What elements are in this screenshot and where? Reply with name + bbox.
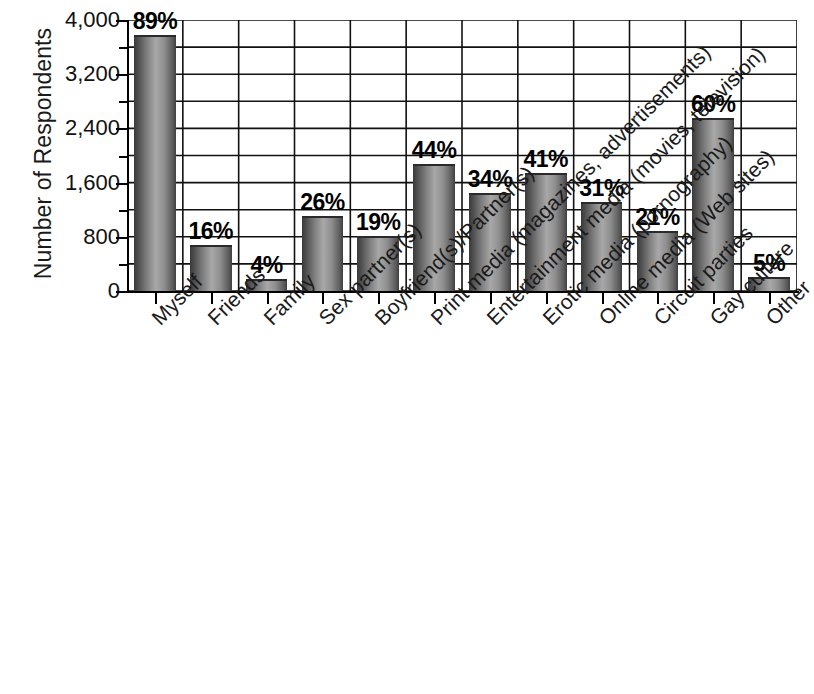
x-axis-category-label: Myself xyxy=(147,270,207,330)
x-axis-category-label: Other xyxy=(761,276,814,330)
x-axis-category-label: Friends xyxy=(203,263,270,330)
